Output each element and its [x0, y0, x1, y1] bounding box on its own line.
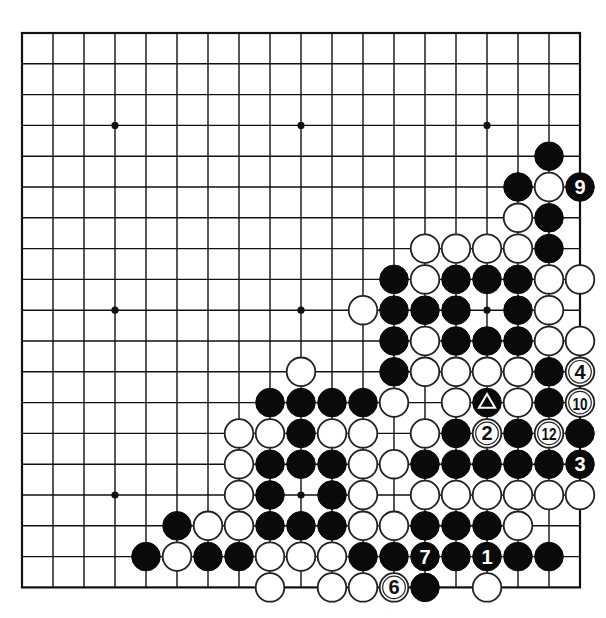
black-stone[interactable]: [442, 265, 471, 294]
white-stone[interactable]: [535, 296, 564, 325]
black-stone[interactable]: [256, 481, 285, 510]
black-stone-7[interactable]: 7: [411, 542, 440, 571]
white-stone[interactable]: [287, 542, 316, 571]
white-stone[interactable]: [194, 512, 223, 541]
black-stone[interactable]: [535, 542, 564, 571]
black-stone[interactable]: [411, 450, 440, 479]
black-stone[interactable]: [411, 512, 440, 541]
white-stone[interactable]: [442, 358, 471, 387]
black-stone[interactable]: [318, 388, 347, 417]
white-stone[interactable]: [380, 388, 409, 417]
white-stone[interactable]: [473, 481, 502, 510]
black-stone[interactable]: [535, 234, 564, 263]
black-stone[interactable]: [380, 265, 409, 294]
black-stone-3[interactable]: 3: [566, 450, 595, 479]
white-stone[interactable]: [442, 388, 471, 417]
white-stone[interactable]: [349, 419, 378, 448]
black-stone[interactable]: [535, 358, 564, 387]
black-stone[interactable]: [411, 573, 440, 602]
black-stone[interactable]: [442, 419, 471, 448]
white-stone[interactable]: [163, 542, 192, 571]
black-stone[interactable]: [287, 450, 316, 479]
black-stone[interactable]: [473, 512, 502, 541]
black-stone[interactable]: [442, 512, 471, 541]
black-stone[interactable]: [504, 327, 533, 356]
white-stone[interactable]: [380, 512, 409, 541]
black-stone[interactable]: [535, 204, 564, 233]
black-stone[interactable]: [504, 419, 533, 448]
black-stone[interactable]: [504, 265, 533, 294]
black-stone[interactable]: [194, 542, 223, 571]
black-stone[interactable]: [566, 419, 595, 448]
black-stone[interactable]: [256, 512, 285, 541]
black-stone[interactable]: [442, 542, 471, 571]
white-stone[interactable]: [535, 265, 564, 294]
black-stone[interactable]: [380, 327, 409, 356]
black-stone-triangle[interactable]: [473, 388, 502, 417]
white-stone[interactable]: [380, 450, 409, 479]
white-stone[interactable]: [504, 388, 533, 417]
black-stone[interactable]: [473, 327, 502, 356]
white-stone[interactable]: [349, 296, 378, 325]
white-stone[interactable]: [442, 234, 471, 263]
black-stone[interactable]: [132, 542, 161, 571]
white-stone[interactable]: [566, 327, 595, 356]
white-stone[interactable]: [566, 481, 595, 510]
white-stone[interactable]: [318, 542, 347, 571]
black-stone[interactable]: [535, 450, 564, 479]
white-stone[interactable]: [442, 481, 471, 510]
black-stone[interactable]: [504, 173, 533, 202]
white-stone[interactable]: [318, 419, 347, 448]
black-stone[interactable]: [504, 450, 533, 479]
white-stone[interactable]: [349, 573, 378, 602]
black-stone[interactable]: [442, 450, 471, 479]
black-stone[interactable]: [287, 388, 316, 417]
black-stone[interactable]: [163, 512, 192, 541]
black-stone[interactable]: [287, 419, 316, 448]
black-stone[interactable]: [256, 450, 285, 479]
black-stone[interactable]: [380, 542, 409, 571]
go-board[interactable]: 94102123716: [0, 0, 606, 618]
black-stone[interactable]: [318, 450, 347, 479]
black-stone[interactable]: [318, 481, 347, 510]
black-stone[interactable]: [535, 388, 564, 417]
white-stone[interactable]: [473, 573, 502, 602]
white-stone[interactable]: [411, 234, 440, 263]
black-stone[interactable]: [349, 542, 378, 571]
white-stone[interactable]: [411, 327, 440, 356]
white-stone[interactable]: [411, 358, 440, 387]
white-stone[interactable]: [504, 481, 533, 510]
white-stone-12[interactable]: 12: [535, 419, 564, 448]
white-stone[interactable]: [287, 358, 316, 387]
black-stone[interactable]: [256, 388, 285, 417]
white-stone[interactable]: [256, 542, 285, 571]
black-stone[interactable]: [442, 296, 471, 325]
black-stone[interactable]: [504, 296, 533, 325]
white-stone[interactable]: [318, 573, 347, 602]
white-stone-10[interactable]: 10: [566, 388, 595, 417]
white-stone-6[interactable]: 6: [380, 573, 409, 602]
white-stone[interactable]: [225, 481, 254, 510]
white-stone[interactable]: [225, 512, 254, 541]
black-stone[interactable]: [287, 512, 316, 541]
white-stone[interactable]: [473, 358, 502, 387]
white-stone[interactable]: [411, 265, 440, 294]
white-stone[interactable]: [535, 327, 564, 356]
white-stone[interactable]: [535, 173, 564, 202]
black-stone[interactable]: [535, 142, 564, 171]
white-stone[interactable]: [256, 573, 285, 602]
black-stone[interactable]: [380, 296, 409, 325]
white-stone[interactable]: [566, 265, 595, 294]
black-stone[interactable]: [225, 542, 254, 571]
black-stone-1[interactable]: 1: [473, 542, 502, 571]
white-stone[interactable]: [225, 419, 254, 448]
white-stone[interactable]: [504, 234, 533, 263]
black-stone[interactable]: [380, 358, 409, 387]
black-stone[interactable]: [473, 450, 502, 479]
white-stone[interactable]: [411, 481, 440, 510]
white-stone[interactable]: [473, 234, 502, 263]
white-stone[interactable]: [411, 419, 440, 448]
white-stone[interactable]: [256, 419, 285, 448]
white-stone-4[interactable]: 4: [566, 358, 595, 387]
black-stone[interactable]: [442, 327, 471, 356]
